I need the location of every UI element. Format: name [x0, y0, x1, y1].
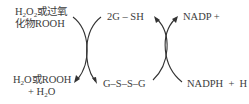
arrowhead-peroxide-to-water	[74, 75, 80, 83]
arrow-peroxide-to-water	[73, 17, 87, 80]
label-peroxide-line2: 化物ROOH	[15, 18, 65, 29]
arrowhead-gsh-to-gssg	[92, 77, 97, 84]
text-o-or-rooh: O或ROOH	[24, 74, 71, 85]
label-gsh: 2G – SH	[107, 11, 144, 23]
arrow-gsh-to-gssg	[87, 17, 101, 81]
label-water-line1: H2O或ROOH	[13, 74, 71, 85]
label-peroxide-line1: H2O2或过氧	[15, 6, 67, 17]
text-plus-h: + H	[28, 86, 44, 97]
label-nadp: NADP +	[183, 11, 220, 23]
text-o: O	[26, 6, 34, 17]
arrow-nadph-to-nadp	[165, 19, 182, 82]
text-or-peroxide: 或过氧	[37, 6, 67, 17]
label-water: H2O或ROOH + H2O	[13, 74, 71, 98]
label-peroxide: H2O2或过氧 化物ROOH	[15, 6, 67, 30]
text-h: H	[13, 74, 21, 85]
text-o: O	[48, 86, 56, 97]
label-water-line2: + H2O	[13, 86, 55, 97]
text-h: H	[15, 6, 23, 17]
label-gssg: G–S–S–G	[103, 78, 146, 90]
label-nadph: NADPH + H	[187, 78, 247, 90]
